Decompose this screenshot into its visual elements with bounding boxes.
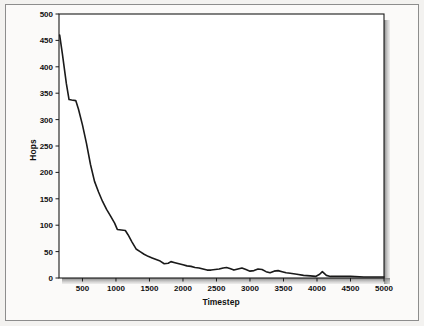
x-axis-tick-labels: 500100015002000250030003500400045005000 [76,284,394,293]
y-axis-tick-labels: 050100150200250300350400450500 [40,10,54,283]
y-tick-label: 200 [40,168,54,177]
x-tick-label: 1000 [107,284,125,293]
x-tick-label: 3000 [241,284,259,293]
x-tick-label: 4500 [342,284,360,293]
x-tick-label: 3500 [275,284,293,293]
x-tick-label: 500 [76,284,90,293]
y-tick-label: 400 [40,63,54,72]
x-tick-label: 5000 [375,284,393,293]
y-axis-title: Hops [28,139,38,161]
y-tick-label: 250 [40,142,54,151]
y-tick-label: 300 [40,116,54,125]
x-tick-label: 1500 [141,284,159,293]
y-tick-label: 500 [40,10,54,19]
y-tick-label: 450 [40,36,54,45]
x-tick-label: 2500 [208,284,226,293]
y-tick-label: 150 [40,195,54,204]
x-tick-label: 4000 [308,284,326,293]
y-tick-label: 50 [44,248,53,257]
y-tick-label: 100 [40,221,54,230]
y-tick-label: 0 [49,274,54,283]
chart-figure: 050100150200250300350400450500 500100015… [0,0,424,326]
plot-area-background [59,14,384,278]
hops-vs-timestep-line-chart: 050100150200250300350400450500 500100015… [0,0,424,326]
y-tick-label: 350 [40,89,54,98]
x-axis-title: Timestep [202,297,239,307]
x-tick-label: 2000 [174,284,192,293]
